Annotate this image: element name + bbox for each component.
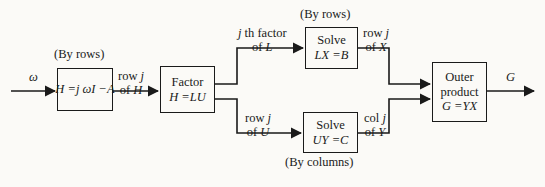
edge-label-col-j-of-y: col j of Y: [362, 111, 388, 139]
edge-label-row-j-of-x-top: row j: [361, 26, 391, 40]
edge-label-row-j-of-x: row j of X: [361, 26, 391, 54]
edge-label-input-omega: ω: [29, 70, 38, 85]
block-solve-uy: Solve UY =C: [303, 112, 358, 153]
caption-by-rows-solve-lx: (By rows): [300, 7, 350, 22]
block-factor-equation: H =LU: [169, 90, 206, 105]
caption-by-columns-solve-uy: (By columns): [285, 155, 353, 170]
edge-label-row-j-of-u-bottom: of U: [243, 125, 273, 139]
block-solve-lx-title: Solve: [317, 33, 345, 48]
block-outer-product-equation: G =YX: [442, 99, 477, 114]
block-diagram-figure: (By rows) H =j ωI −A row j of H ω Factor…: [0, 0, 545, 187]
block-factor: Factor H =LU: [160, 66, 215, 113]
edge-label-jth-factor-of-l-top: j th factor: [236, 26, 289, 40]
block-form-matrix-equation: H =j ωI −A: [55, 82, 114, 97]
block-outer-product: Outer product G =YX: [432, 62, 487, 122]
edge-label-jth-factor-of-l: j th factor of L: [236, 26, 289, 54]
edge-label-row-j-of-h: row j of H: [116, 69, 146, 97]
edge-label-jth-factor-of-l-bottom: of L: [236, 40, 289, 54]
block-outer-product-title-1: Outer: [445, 70, 473, 85]
edge-label-row-j-of-x-bottom: of X: [361, 40, 391, 54]
block-solve-uy-title: Solve: [316, 118, 344, 133]
edge-label-col-j-of-y-bottom: of Y: [362, 125, 388, 139]
block-solve-lx-equation: LX =B: [315, 48, 349, 63]
edge-label-row-j-of-u: row j of U: [243, 111, 273, 139]
edge-label-row-j-of-h-top: row j: [116, 69, 146, 83]
caption-by-rows-form-matrix: (By rows): [54, 47, 104, 62]
edge-label-row-j-of-u-top: row j: [243, 111, 273, 125]
block-form-matrix: H =j ωI −A: [57, 68, 113, 111]
block-solve-uy-equation: UY =C: [313, 133, 349, 148]
edge-label-row-j-of-h-bottom: of H: [116, 83, 146, 97]
block-factor-title: Factor: [172, 75, 204, 90]
block-outer-product-title-2: product: [440, 85, 478, 100]
edge-label-output-g: G: [506, 70, 515, 85]
block-solve-lx: Solve LX =B: [305, 27, 358, 69]
edge-label-col-j-of-y-top: col j: [362, 111, 388, 125]
